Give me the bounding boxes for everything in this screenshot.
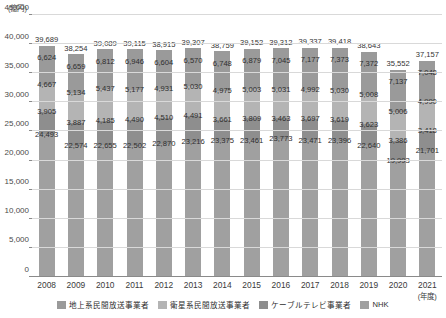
bar-segment-value-label: 4,667 — [37, 81, 56, 89]
x-axis-tick-label: 2021 — [418, 281, 437, 289]
bar-segment-value-label: 4,992 — [301, 86, 320, 94]
bar-segment-value-label: 6,659 — [66, 63, 85, 71]
bar-segment — [39, 134, 55, 277]
bar-segment-value-label: 7,045 — [271, 57, 290, 65]
bar-segment — [361, 145, 377, 277]
bar-segment-value-label: 3,697 — [301, 115, 320, 123]
bar-segment-value-label: 23,396 — [328, 137, 351, 145]
legend-swatch-icon — [158, 301, 167, 309]
bar-segment — [214, 51, 230, 90]
bar-segment — [214, 141, 230, 277]
bar-segment-value-label: 6,624 — [37, 54, 56, 62]
bar-segment — [97, 49, 113, 89]
y-axis-tick-label: 10,000 — [5, 207, 29, 215]
y-axis-tick-label: 45,000 — [5, 4, 29, 12]
y-tick-mark — [29, 130, 32, 131]
y-axis-tick-label: 5,000 — [9, 236, 29, 244]
gridline — [32, 14, 442, 15]
gridline — [32, 247, 442, 248]
bar-segment-value-label: 3,463 — [271, 115, 290, 123]
legend-item-label: ケーブルテレビ事業者 — [271, 299, 351, 310]
bar-segment — [273, 48, 289, 89]
legend-item-label: NHK — [372, 300, 388, 309]
bar-segment-value-label: 5,003 — [242, 86, 261, 94]
bar-segment-value-label: 6,570 — [184, 57, 203, 65]
bar-segment-value-label: 5,030 — [330, 87, 349, 95]
chart-legend: 地上系民間放送事業者衛星系民間放送事業者ケーブルテレビ事業者NHK — [0, 299, 446, 310]
y-tick-mark — [29, 101, 32, 102]
y-axis-tick-label: 0 — [25, 266, 29, 274]
bar-segment-value-label: 6,946 — [125, 58, 144, 66]
bar-segment — [68, 146, 84, 277]
bar-segment — [68, 54, 84, 93]
plot-area: 39,68924,4933,9054,6676,6246,62438,25422… — [32, 15, 442, 277]
bar-total-label: 35,552 — [386, 60, 409, 68]
bar-column — [361, 52, 377, 277]
legend-swatch-icon — [360, 301, 369, 309]
legend-swatch-icon — [57, 301, 66, 309]
bar-segment-value-label: 4,510 — [154, 114, 173, 122]
x-axis-tick-label: 2010 — [96, 281, 115, 289]
bar-total-label: 37,157 — [416, 51, 439, 59]
bar-column — [302, 48, 318, 277]
bar-segment — [302, 48, 318, 90]
bar-segment — [419, 151, 435, 277]
bar-segment-value-label: 23,773 — [269, 135, 292, 143]
y-axis-tick-label: 15,000 — [5, 178, 29, 186]
bar-segment-value-label: 23,216 — [181, 138, 204, 146]
legend-item[interactable]: NHK — [360, 300, 388, 309]
gridline — [32, 160, 442, 161]
bar-segment-value-label: 6,879 — [242, 57, 261, 65]
y-axis-tick-label: 40,000 — [5, 33, 29, 41]
bar-segment — [419, 61, 435, 102]
legend-item[interactable]: 衛星系民間放送事業者 — [158, 299, 250, 310]
bar-segment — [127, 146, 143, 277]
y-tick-mark — [29, 218, 32, 219]
bar-segment-value-label: 3,386 — [389, 137, 408, 145]
y-axis-tick-label: 25,000 — [5, 120, 29, 128]
bar-segment — [97, 145, 113, 277]
bar-segment-value-label: 22,574 — [64, 142, 87, 150]
bar-segment-value-label: 5,437 — [96, 85, 115, 93]
y-tick-mark — [29, 247, 32, 248]
x-axis-tick-label: 2013 — [184, 281, 203, 289]
bar-segment-value-label: 7,373 — [330, 56, 349, 64]
bar-segment-value-label: 7,137 — [389, 78, 408, 86]
x-axis-tick-label: 2014 — [213, 281, 232, 289]
bar-segment-value-label: 6,812 — [96, 58, 115, 66]
bar-segment-value-label: 5,008 — [359, 91, 378, 99]
bar-segment-value-label: 7,372 — [359, 60, 378, 68]
x-axis-tick-label: 2012 — [154, 281, 173, 289]
bar-column — [127, 49, 143, 277]
bar-segment-value-label: 3,887 — [66, 119, 85, 127]
bar-segment — [156, 50, 172, 88]
bar-segment-value-label: 23,461 — [240, 137, 263, 145]
bar-segment-value-label: 22,655 — [94, 142, 117, 150]
bar-segment-value-label: 22,870 — [152, 140, 175, 148]
legend-item[interactable]: ケーブルテレビ事業者 — [259, 299, 351, 310]
bar-segment-value-label: 24,493 — [35, 131, 58, 139]
bar-segment-value-label: 7,177 — [301, 56, 320, 64]
bar-segment-value-label: 22,502 — [123, 142, 146, 150]
bar-segment-value-label: 5,134 — [66, 89, 85, 97]
bar-total-label: 39,418 — [328, 38, 351, 46]
legend-item-label: 地上系民間放送事業者 — [69, 299, 149, 310]
bar-segment — [39, 46, 55, 85]
gridline — [32, 130, 442, 131]
gridline — [32, 43, 442, 44]
y-tick-mark — [29, 160, 32, 161]
bar-segment-value-label: 6,748 — [213, 60, 232, 68]
y-axis-tick-label: 30,000 — [5, 91, 29, 99]
y-axis-tick-label: 20,000 — [5, 149, 29, 157]
y-tick-mark — [29, 43, 32, 44]
x-axis-tick-label: 2018 — [330, 281, 349, 289]
bar-segment — [332, 141, 348, 277]
bar-segment-value-label: 4,931 — [154, 85, 173, 93]
x-axis-tick-label: 2008 — [37, 281, 56, 289]
legend-item[interactable]: 地上系民間放送事業者 — [57, 299, 149, 310]
bar-segment-value-label: 4,975 — [213, 87, 232, 95]
gridline — [32, 189, 442, 190]
bar-segment — [244, 49, 260, 89]
bar-segment-value-label: 19,993 — [386, 157, 409, 165]
bar-segment — [156, 144, 172, 277]
